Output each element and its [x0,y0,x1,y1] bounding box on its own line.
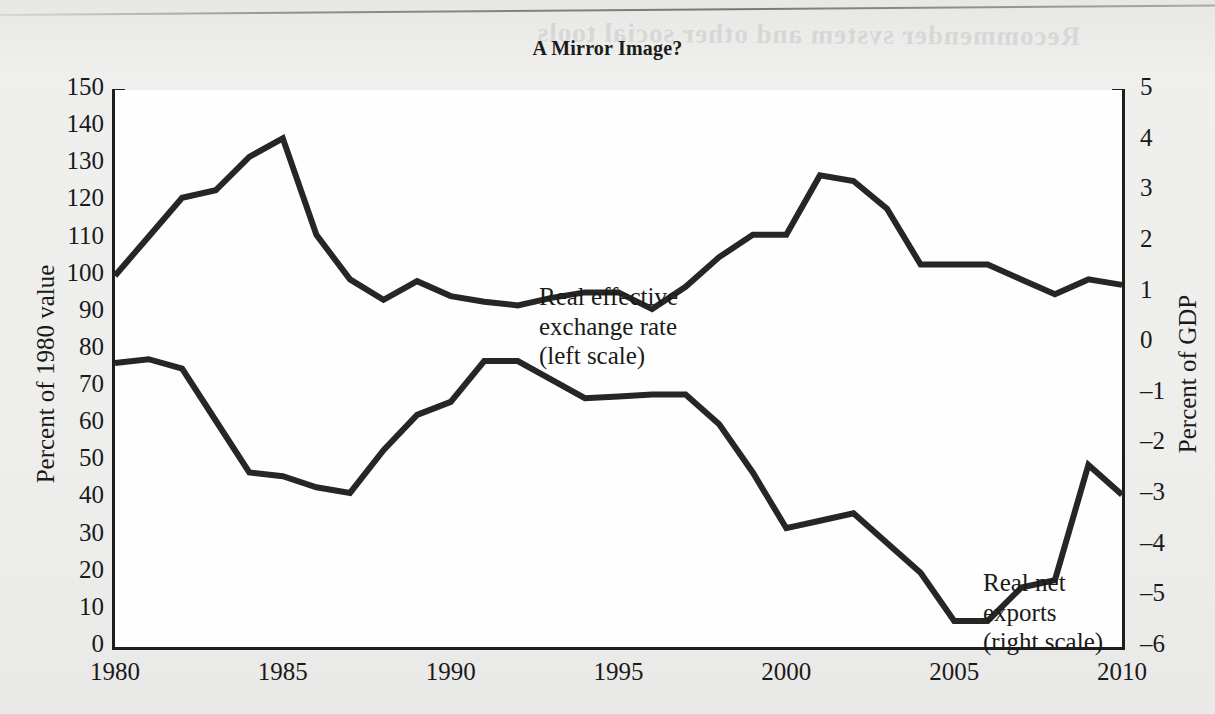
y-axis-left-tick-label: 120 [40,184,104,212]
y-axis-left-tick-label: 90 [40,296,104,324]
y-axis-left-tick-label: 110 [40,222,104,250]
y-axis-left-tick-label: 100 [40,259,104,287]
y-axis-right-tick-label: –1 [1140,377,1165,405]
y-axis-left-tick-label: 70 [40,370,104,398]
y-axis-right-tick-label: 2 [1140,225,1153,253]
series-line-real-net-exports [115,359,1122,621]
y-axis-left-tick-label: 80 [40,333,104,361]
y-axis-left-tick-label: 10 [40,593,104,621]
x-axis-tick-label: 1995 [559,658,679,686]
chart-title: A Mirror Image? [0,37,1215,60]
y-axis-left-tick-label: 40 [40,481,104,509]
y-axis-right-tick-label: –2 [1140,427,1165,455]
y-axis-left-tick-label: 0 [40,630,104,658]
y-axis-right-tick-label: –6 [1140,630,1165,658]
y-axis-left-tick-label: 140 [40,110,104,138]
figure-page: Recommender system and other social tool… [0,0,1215,714]
y-axis-left-tick-label: 130 [40,147,104,175]
y-axis-left-tick-label: 30 [40,519,104,547]
y-axis-left-tick-label: 50 [40,444,104,472]
annotation-real-net-exports: Real net exports (right scale) [983,568,1122,657]
y-axis-left-tick-label: 60 [40,407,104,435]
y-axis-right-tick-label: 3 [1140,174,1153,202]
y-axis-right-title: Percent of GDP [1174,224,1202,524]
x-axis-tick-label: 2010 [1062,658,1182,686]
y-axis-right-tick-label: –3 [1140,478,1165,506]
y-axis-right-tick-label: 1 [1140,276,1153,304]
plot-inner: Real effective exchange rate (left scale… [115,90,1122,647]
y-axis-right-tick-label: –5 [1140,579,1165,607]
plot-area: Real effective exchange rate (left scale… [112,90,1125,650]
x-axis-tick-label: 1985 [223,658,343,686]
y-axis-right-tick-label: 0 [1140,326,1153,354]
x-axis-tick-label: 2000 [726,658,846,686]
y-axis-left-tick-label: 20 [40,556,104,584]
y-axis-right-tick-label: 4 [1140,124,1153,152]
y-axis-right-tick-label: 5 [1140,73,1153,101]
y-axis-right-tick-label: –4 [1140,529,1165,557]
page-top-rule [0,4,1215,16]
x-axis-tick-label: 1980 [55,658,175,686]
x-axis-tick-label: 2005 [894,658,1014,686]
x-axis-tick-label: 1990 [391,658,511,686]
annotation-real-effective-exchange-rate: Real effective exchange rate (left scale… [539,282,678,371]
y-axis-left-tick-label: 150 [40,73,104,101]
